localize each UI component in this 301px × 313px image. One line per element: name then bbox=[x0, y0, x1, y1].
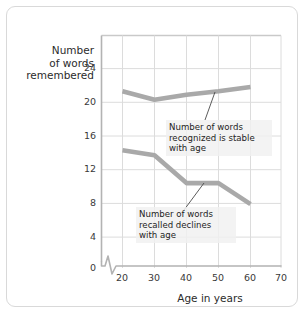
x-tick-40: 40 bbox=[176, 272, 196, 283]
y-tick-4: 4 bbox=[78, 231, 96, 242]
y-axis-title-line-1: Number bbox=[14, 44, 94, 57]
annotation-recognized: Number of words recognized is stable wit… bbox=[166, 120, 272, 156]
x-tick-60: 60 bbox=[240, 272, 260, 283]
annotation-recalled: Number of words recalled declines with a… bbox=[136, 207, 236, 243]
x-tick-50: 50 bbox=[208, 272, 228, 283]
annotation-leader-recognized bbox=[205, 92, 215, 120]
chart-figure: Number of words remembered Age in years … bbox=[0, 0, 301, 313]
y-tick-8: 8 bbox=[78, 197, 96, 208]
y-tick-20: 20 bbox=[78, 96, 96, 107]
x-axis-title: Age in years bbox=[150, 292, 270, 305]
y-tick-16: 16 bbox=[78, 130, 96, 141]
y-tick-0: 0 bbox=[78, 262, 96, 273]
x-tick-30: 30 bbox=[144, 272, 164, 283]
x-tick-70: 70 bbox=[271, 272, 291, 283]
x-tick-20: 20 bbox=[112, 272, 132, 283]
y-tick-12: 12 bbox=[78, 163, 96, 174]
y-tick-24: 24 bbox=[78, 62, 96, 73]
